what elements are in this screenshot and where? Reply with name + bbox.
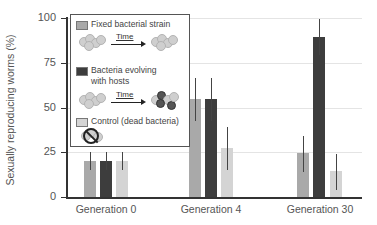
time-label: Time: [116, 90, 133, 99]
y-tick-25: 25: [34, 145, 56, 157]
time-arrow-icon: [111, 44, 141, 45]
legend-label-control: Control (dead bacteria): [91, 116, 179, 127]
time-arrow-icon: [111, 102, 141, 103]
error-bar: [303, 136, 304, 172]
x-label-gen30: Generation 30: [275, 203, 365, 215]
x-label-gen4: Generation 4: [166, 203, 256, 215]
error-bar: [211, 78, 212, 121]
error-bar: [122, 152, 123, 170]
y-tick-50: 50: [34, 101, 56, 113]
prohibited-icon: [83, 128, 99, 144]
legend-label-evolving-2: with hosts: [91, 76, 129, 87]
arrowhead-icon: [141, 41, 146, 47]
error-bar: [336, 154, 337, 190]
error-bar: [227, 127, 228, 170]
legend-label-fixed: Fixed bacterial strain: [91, 19, 170, 30]
error-bar: [195, 78, 196, 121]
bar-gen30-evolving: [313, 37, 325, 197]
error-bar: [90, 152, 91, 170]
y-axis: [66, 17, 68, 198]
x-axis: [66, 197, 362, 199]
error-bar: [319, 19, 320, 55]
y-tick-0: 0: [34, 190, 56, 202]
legend: Fixed bacterial strain Time Bacteria evo…: [70, 14, 190, 147]
error-bar: [106, 152, 107, 170]
y-tick-100: 100: [34, 11, 56, 23]
y-axis-label: Sexually reproducing worms (%): [4, 34, 16, 185]
legend-label-evolving-1: Bacteria evolving: [91, 65, 156, 76]
time-label: Time: [116, 32, 133, 41]
legend-swatch-control: [76, 118, 88, 127]
x-label-gen0: Generation 0: [61, 203, 151, 215]
legend-swatch-evolving: [76, 67, 88, 76]
arrowhead-icon: [141, 99, 146, 105]
legend-swatch-fixed: [76, 21, 88, 30]
y-tick-75: 75: [34, 56, 56, 68]
